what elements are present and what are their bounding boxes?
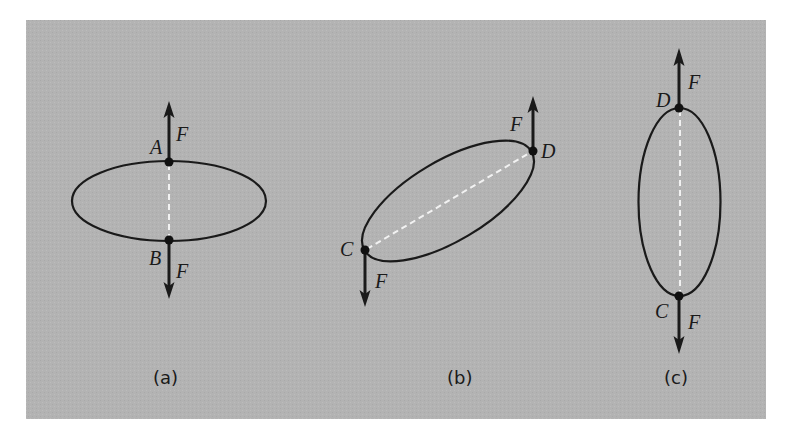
force-label-a: F [175,123,189,145]
figure-canvas: A F B F (a) D F C F (b) D F [0,0,789,438]
force-label-d: F [509,113,523,135]
point-label-a: A [148,136,163,158]
caption-b: (b) [447,367,472,388]
point-b-dot [165,236,174,245]
point-c-dot [675,292,684,301]
point-label-d: D [540,140,556,162]
point-c-dot [361,246,370,255]
point-d-dot [675,104,684,113]
caption-a: (a) [153,367,178,388]
point-label-b: B [149,247,161,269]
force-label-b: F [175,260,189,282]
caption-c: (c) [664,367,688,388]
point-label-d: D [655,89,671,111]
point-a-dot [165,158,174,167]
figure-background [26,20,766,419]
point-label-c: C [655,300,669,322]
point-label-c: C [340,238,354,260]
point-d-dot [529,147,538,156]
force-label-c: F [687,311,701,333]
force-label-d: F [687,71,701,93]
force-label-c: F [374,270,388,292]
